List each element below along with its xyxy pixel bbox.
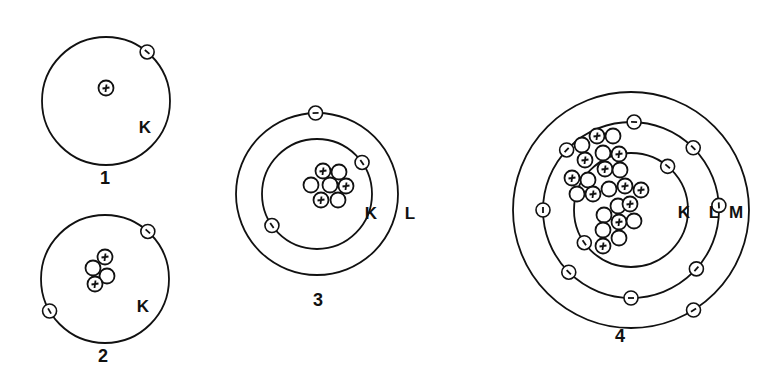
- atom-2: K2: [41, 215, 169, 366]
- atom-number-label: 3: [313, 290, 323, 310]
- neutron-particle: [606, 129, 621, 144]
- neutron-particle: [86, 261, 101, 276]
- neutron-particle: [575, 138, 590, 153]
- neutron-particle: [332, 165, 347, 180]
- neutron-particle: [581, 173, 596, 188]
- neutron-particle: [627, 214, 642, 229]
- atom-diagrams-figure: K1K2KL3KLM4: [0, 0, 769, 376]
- neutron-particle: [570, 187, 585, 202]
- shell-label-k: K: [137, 297, 150, 316]
- atom-1: K1: [42, 37, 170, 188]
- neutron-particle: [597, 208, 612, 223]
- neutron-particle: [602, 182, 617, 197]
- atom-4: KLM4: [513, 92, 749, 346]
- shell-label-k: K: [139, 118, 152, 137]
- shell-label-k: K: [678, 203, 691, 222]
- neutron-particle: [331, 193, 346, 208]
- diagram-canvas: K1K2KL3KLM4: [0, 0, 769, 376]
- neutron-particle: [304, 178, 319, 193]
- atom-number-label: 4: [615, 326, 625, 346]
- neutron-particle: [596, 146, 611, 161]
- neutron-particle: [323, 178, 338, 193]
- atom-number-label: 2: [98, 346, 108, 366]
- neutron-particle: [596, 223, 611, 238]
- shell-label-m: M: [729, 203, 743, 222]
- shell-label-k: K: [365, 204, 378, 223]
- atom-3: KL3: [236, 106, 415, 310]
- neutron-particle: [612, 231, 627, 246]
- atom-number-label: 1: [100, 168, 110, 188]
- neutron-particle: [613, 163, 628, 178]
- shell-label-l: L: [405, 204, 415, 223]
